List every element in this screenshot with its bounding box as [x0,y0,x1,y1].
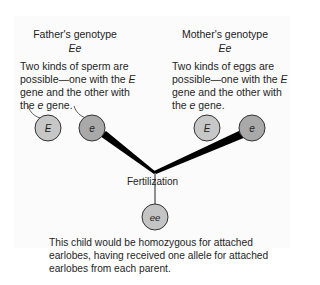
child-description: This child would be homozygous for attac… [49,236,289,275]
child-genotype-label: ee [150,212,161,223]
allele-label: e [249,123,255,134]
allele-label: E [45,123,52,134]
fertilization-label: Fertilization [127,176,178,187]
callout-line [74,106,86,118]
allele-label: e [89,123,95,134]
allele-label: E [204,123,211,134]
sperm-path-wedge [100,131,156,174]
callout-line [28,106,40,118]
